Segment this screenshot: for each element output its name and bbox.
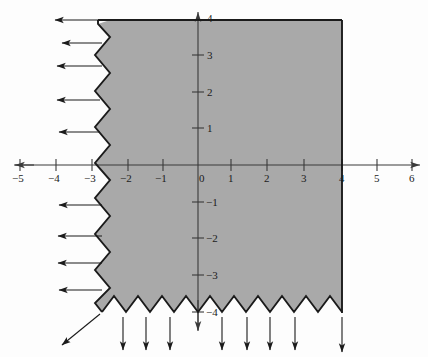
y-tick-label--4: −4 bbox=[206, 307, 218, 318]
down-direction-arrows bbox=[123, 317, 342, 352]
x-tick-label-5: 5 bbox=[374, 173, 380, 184]
y-tick-label-1: 1 bbox=[207, 123, 213, 134]
x-tick-label-1: 1 bbox=[228, 173, 234, 184]
x-tick-label--4: −4 bbox=[48, 173, 60, 184]
x-tick-label-0: 0 bbox=[199, 173, 205, 184]
diagonal-arrow-line bbox=[62, 314, 100, 345]
y-tick-label--1: −1 bbox=[206, 197, 218, 208]
x-tick-label--1: −1 bbox=[155, 173, 167, 184]
y-tick-label-3: 3 bbox=[207, 50, 213, 61]
y-tick-label--2: −2 bbox=[206, 233, 218, 244]
x-tick-label-4: 4 bbox=[339, 173, 345, 184]
x-tick-label--2: −2 bbox=[120, 173, 132, 184]
shaded-region-fill bbox=[95, 20, 342, 312]
x-tick-label-6: 6 bbox=[409, 173, 415, 184]
graph-figure: −5 −4 −3 −2 −1 0 1 2 3 4 5 6 4 3 2 1 −1 … bbox=[0, 0, 428, 357]
diagonal-corner-arrow bbox=[62, 314, 100, 345]
y-tick-label-4: 4 bbox=[207, 13, 213, 24]
x-tick-label-2: 2 bbox=[264, 173, 270, 184]
x-tick-label--5: −5 bbox=[12, 173, 24, 184]
x-tick-label-3: 3 bbox=[301, 173, 307, 184]
y-tick-label--3: −3 bbox=[206, 270, 218, 281]
shaded-region bbox=[95, 20, 342, 312]
coordinate-plane-svg bbox=[0, 0, 428, 357]
y-tick-label-2: 2 bbox=[207, 87, 213, 98]
x-tick-label--3: −3 bbox=[84, 173, 96, 184]
